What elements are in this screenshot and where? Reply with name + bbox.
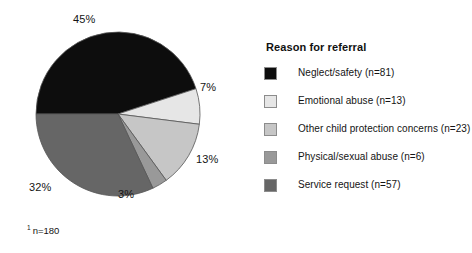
legend: Reason for referral Neglect/safety (n=81…	[264, 41, 472, 205]
slice-label-service: 32%	[29, 181, 51, 193]
pie-chart-figure: 45% 7% 13% 3% 32% 1n=180 Reason for refe…	[0, 0, 472, 253]
pie-svg	[0, 0, 250, 253]
legend-label-other: Other child protection concerns (n=23)	[298, 123, 470, 135]
legend-label-neglect: Neglect/safety (n=81)	[298, 67, 394, 79]
legend-swatch-neglect	[264, 67, 277, 80]
slice-label-emotional: 7%	[200, 81, 216, 93]
legend-label-service: Service request (n=57)	[298, 179, 401, 191]
legend-item-physical: Physical/sexual abuse (n=6)	[264, 149, 472, 165]
footnote: 1n=180	[27, 222, 59, 236]
pie-plot-area: 45% 7% 13% 3% 32% 1n=180	[0, 0, 250, 253]
legend-item-neglect: Neglect/safety (n=81)	[264, 65, 472, 81]
legend-item-service: Service request (n=57)	[264, 177, 472, 193]
legend-swatch-emotional	[264, 95, 277, 108]
legend-title: Reason for referral	[266, 41, 472, 53]
footnote-marker: 1	[27, 224, 31, 231]
slice-label-neglect: 45%	[73, 13, 95, 25]
pie-slices-group	[36, 32, 200, 196]
legend-item-other: Other child protection concerns (n=23)	[264, 121, 472, 137]
slice-label-other: 13%	[196, 153, 218, 165]
legend-item-emotional: Emotional abuse (n=13)	[264, 93, 472, 109]
legend-swatch-other	[264, 123, 277, 136]
footnote-text: n=180	[33, 225, 60, 236]
legend-label-emotional: Emotional abuse (n=13)	[298, 95, 406, 107]
legend-swatch-service	[264, 179, 277, 192]
legend-label-physical: Physical/sexual abuse (n=6)	[298, 151, 425, 163]
legend-swatch-physical	[264, 151, 277, 164]
slice-label-physical: 3%	[118, 188, 134, 200]
